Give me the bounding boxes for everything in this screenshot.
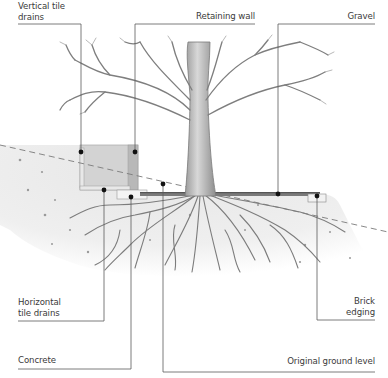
dot-original-ground-level — [161, 182, 166, 187]
label-retaining-wall: Retaining wall — [170, 11, 255, 22]
leader-vertical-tile-drains — [18, 24, 81, 152]
label-line: Brick — [300, 296, 375, 307]
label-line: tile drains — [18, 308, 61, 319]
dot-concrete — [129, 195, 134, 200]
dot-brick-edging — [315, 194, 320, 199]
label-vertical-tile-drains: Vertical tile drains — [18, 1, 65, 23]
label-gravel: Gravel — [320, 11, 375, 22]
leader-gravel — [278, 24, 375, 194]
dot-retaining-wall — [133, 150, 138, 155]
diagram-illustration — [0, 0, 388, 378]
label-concrete: Concrete — [18, 355, 56, 366]
dot-gravel — [276, 192, 281, 197]
label-line: Horizontal — [18, 297, 61, 308]
label-line: edging — [300, 307, 375, 318]
label-horizontal-tile-drains: Horizontal tile drains — [18, 297, 61, 319]
tree-root-diagram: Vertical tile drains Retaining wall Grav… — [0, 0, 388, 378]
dot-horizontal-tile-drains — [102, 188, 107, 193]
label-original-ground-level: Original ground level — [260, 356, 375, 367]
label-line: drains — [18, 12, 65, 23]
dot-vertical-tile-drains — [79, 150, 84, 155]
label-line: Vertical tile — [18, 1, 65, 12]
label-brick-edging: Brick edging — [300, 296, 375, 318]
